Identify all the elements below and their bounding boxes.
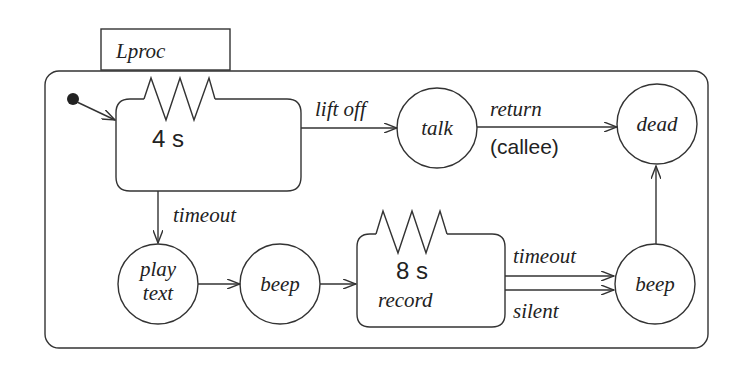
state-beep-1: beep bbox=[240, 244, 320, 324]
state-label: beep bbox=[260, 272, 300, 296]
timer-label: 4 s bbox=[152, 125, 184, 152]
state-dead: dead bbox=[617, 84, 697, 164]
state-beep-2: beep bbox=[615, 244, 695, 324]
container-tab: Lproc bbox=[101, 29, 230, 70]
state-label: beep bbox=[635, 272, 675, 296]
transition-label-timeout-2: timeout bbox=[513, 244, 577, 268]
timer-label: 8 s bbox=[396, 257, 428, 284]
state-label: dead bbox=[637, 112, 678, 136]
state-label-line2: text bbox=[143, 281, 174, 305]
state-record: 8 s record bbox=[357, 211, 505, 327]
container-box bbox=[45, 71, 708, 348]
initial-state-dot bbox=[67, 93, 79, 105]
transition-label-lift-off: lift off bbox=[315, 97, 369, 121]
state-play-text: play text bbox=[118, 244, 198, 324]
statechart-diagram: Lproc 4 s lift off talk return (callee) … bbox=[0, 0, 738, 366]
state-label-line1: play bbox=[138, 257, 177, 281]
transition-sublabel-callee: (callee) bbox=[490, 135, 559, 158]
container-label: Lproc bbox=[115, 39, 166, 63]
state-label: talk bbox=[421, 116, 453, 140]
timer-zigzag-icon bbox=[376, 211, 447, 253]
timer-zigzag-icon bbox=[144, 78, 215, 120]
state-wait: 4 s bbox=[116, 78, 301, 191]
transition-label-timeout: timeout bbox=[173, 203, 237, 227]
transition-label-return: return bbox=[490, 97, 542, 121]
initial-transition-arrow bbox=[77, 102, 115, 120]
transition-label-silent: silent bbox=[513, 299, 560, 323]
state-talk: talk bbox=[397, 88, 477, 168]
state-label: record bbox=[378, 288, 433, 312]
